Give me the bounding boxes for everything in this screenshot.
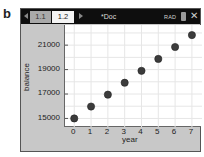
angle-mode-indicator: RAD bbox=[164, 12, 176, 22]
battery-icon bbox=[181, 12, 186, 21]
data-point[interactable] bbox=[188, 31, 195, 38]
tab-1-1[interactable]: 1.1 bbox=[30, 11, 51, 23]
x-tick-label: 7 bbox=[186, 127, 196, 136]
figure-label: b bbox=[3, 7, 11, 20]
y-tick-label: 21000 bbox=[26, 40, 60, 49]
x-axis-label: year bbox=[122, 135, 138, 144]
x-tick-label: 5 bbox=[152, 127, 162, 136]
document-title: *Doc bbox=[101, 11, 116, 23]
data-point[interactable] bbox=[104, 91, 111, 98]
tab-scroll-right-icon[interactable] bbox=[79, 13, 83, 19]
title-bar: 1.1 1.2 *Doc RAD ✕ bbox=[21, 9, 200, 24]
y-tick-label: 15000 bbox=[26, 113, 60, 122]
data-point[interactable] bbox=[138, 67, 145, 74]
tab-scroll-left-icon[interactable] bbox=[24, 13, 28, 19]
x-tick-label: 6 bbox=[169, 127, 179, 136]
data-point[interactable] bbox=[71, 115, 78, 122]
data-point[interactable] bbox=[155, 55, 162, 62]
scatter-plot bbox=[65, 25, 202, 127]
tab-1-2[interactable]: 1.2 bbox=[52, 11, 74, 23]
y-tick-label: 19000 bbox=[26, 64, 60, 73]
data-point[interactable] bbox=[121, 79, 128, 86]
y-tick-label: 17000 bbox=[26, 88, 60, 97]
x-tick-label: 2 bbox=[102, 127, 112, 136]
calculator-window: 1.1 1.2 *Doc RAD ✕ balance 21000 19000 1… bbox=[20, 8, 201, 152]
close-icon[interactable]: ✕ bbox=[190, 10, 198, 22]
x-tick-label: 1 bbox=[85, 127, 95, 136]
plot-area[interactable] bbox=[64, 25, 201, 127]
data-point[interactable] bbox=[87, 103, 94, 110]
data-point[interactable] bbox=[172, 43, 179, 50]
x-tick-label: 0 bbox=[68, 127, 78, 136]
